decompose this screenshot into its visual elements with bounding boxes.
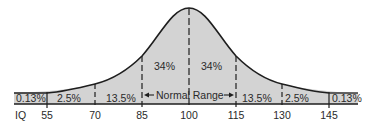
normal-range-label: Normal Range: [156, 89, 224, 101]
pct-130-145: 2.5%: [285, 92, 309, 104]
tick-130: 130: [273, 109, 291, 121]
iq-bell-curve-chart: 0.13% 2.5% 13.5% 34% 34% 13.5% 2.5% 0.13…: [0, 0, 368, 131]
tick-100: 100: [180, 109, 198, 121]
pct-right-tail: 0.13%: [332, 92, 362, 104]
x-axis-title: IQ: [15, 109, 26, 121]
pct-70-85: 13.5%: [106, 92, 136, 104]
pct-55-70: 2.5%: [57, 92, 81, 104]
tick-85: 85: [136, 109, 148, 121]
tick-145: 145: [320, 109, 338, 121]
tick-55: 55: [41, 109, 53, 121]
pct-115-130: 13.5%: [242, 92, 272, 104]
pct-left-tail: 0.13%: [16, 92, 46, 104]
normal-range-annotation: Normal Range: [144, 89, 234, 101]
pct-100-115: 34%: [201, 60, 222, 72]
tick-115: 115: [228, 109, 245, 121]
tick-70: 70: [89, 109, 101, 121]
pct-85-100: 34%: [154, 60, 175, 72]
